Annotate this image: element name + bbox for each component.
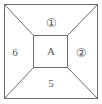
region-label-left: 6 [2, 47, 28, 58]
top-right-diagonal [68, 5, 98, 36]
bottom-right-diagonal [68, 68, 98, 99]
region-label-center: A [36, 46, 66, 57]
region-label-top: ① [36, 17, 66, 29]
top-left-diagonal [5, 5, 34, 36]
region-label-bottom: 5 [36, 78, 66, 89]
bottom-left-diagonal [5, 68, 34, 99]
region-label-right: ② [66, 47, 96, 59]
figure-container: ① ② 5 6 A [0, 0, 102, 104]
